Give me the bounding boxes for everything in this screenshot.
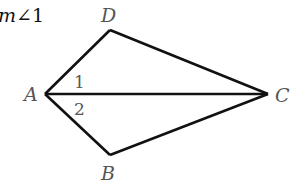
segment-BC xyxy=(110,94,268,155)
vertex-label-D: D xyxy=(100,4,116,26)
vertex-label-A: A xyxy=(22,83,38,105)
angle-label-2: 2 xyxy=(74,99,85,119)
vertex-label-B: B xyxy=(100,162,115,184)
vertex-label-C: C xyxy=(275,84,290,106)
kite-diagram: m∠1 D A C B 1 2 xyxy=(0,0,295,187)
caption-suffix: 1 xyxy=(32,4,44,26)
angle-symbol: ∠ xyxy=(16,4,32,26)
segment-DC xyxy=(110,30,268,94)
caption: m∠1 xyxy=(0,4,44,26)
angle-label-1: 1 xyxy=(74,72,85,92)
caption-prefix: m xyxy=(0,4,16,26)
